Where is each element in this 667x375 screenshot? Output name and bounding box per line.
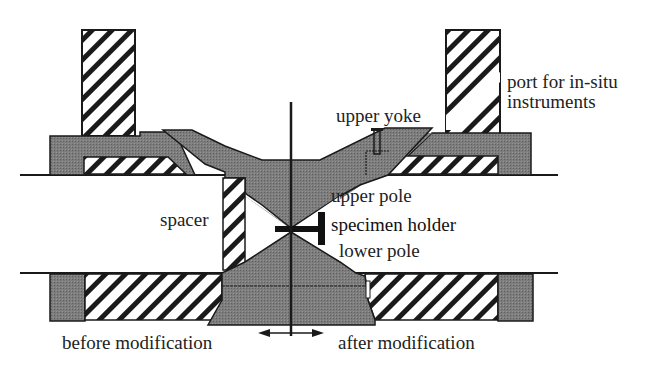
lower-left-flange — [50, 274, 222, 321]
lower-right-flange — [365, 274, 533, 321]
label-lower-pole: lower pole — [339, 241, 420, 261]
lower-right-coil — [365, 274, 498, 320]
label-port-line2: instruments — [507, 92, 596, 112]
lower-pole-pin — [366, 281, 370, 298]
label-port: port for in-situ — [507, 72, 618, 92]
left-coil-tower — [82, 30, 135, 136]
label-before-modification: before modification — [62, 333, 212, 353]
upper-left-coil — [84, 157, 186, 174]
label-upper-pole: upper pole — [331, 186, 412, 206]
label-spacer: spacer — [160, 210, 209, 230]
arrow-left-icon — [258, 329, 270, 337]
label-after-modification: after modification — [338, 333, 475, 353]
label-specimen-holder: specimen holder — [331, 215, 456, 235]
upper-right-coil — [388, 156, 498, 174]
lower-left-coil — [85, 274, 222, 320]
right-coil-tower — [446, 30, 500, 136]
spacer — [223, 178, 245, 270]
label-upper-yoke: upper yoke — [336, 106, 421, 126]
arrow-right-icon — [312, 329, 324, 337]
